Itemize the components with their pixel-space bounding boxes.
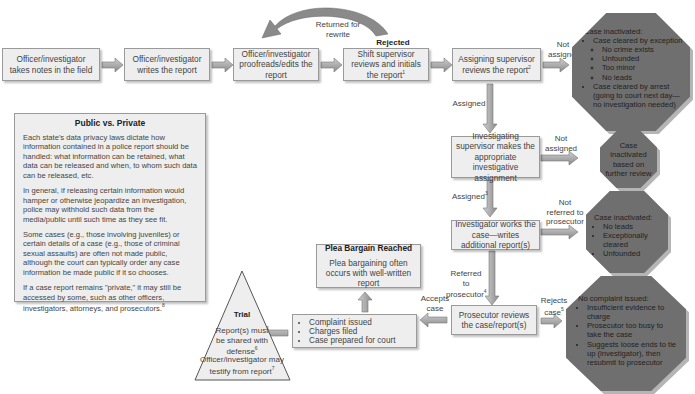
panel-paragraph: Each state's data privacy laws dictate h… xyxy=(23,133,197,180)
box-prosecutor-reviews: Prosecutor reviews the case/report(s) xyxy=(451,305,537,335)
panel-paragraph: Some cases (e.g., those involving juveni… xyxy=(23,230,197,277)
panel-paragraph: In general, if releasing certain informa… xyxy=(23,186,197,224)
octagon-item: Insufficient evidence to charge xyxy=(587,303,678,321)
box-text: Assigning supervisor reviews the report2 xyxy=(456,54,537,75)
plea-bargain-box: Plea Bargain Reached Plea bargaining oft… xyxy=(316,244,421,288)
trial-line-2: Officer/investigator may testify from re… xyxy=(200,355,284,376)
footnote: 7 xyxy=(272,365,275,371)
trial-line-1: Report(s) must be shared with defense6 xyxy=(212,326,272,356)
accepted-item: Charges filed xyxy=(309,327,410,336)
octagon-item: No leads xyxy=(603,222,664,231)
plea-title: Plea Bargain Reached xyxy=(325,243,412,253)
octagon-sublist: No crime exists Unfounded Too minor No l… xyxy=(593,45,684,81)
box-proofreads: Officer/investigator proofreads/edits th… xyxy=(233,48,319,81)
panel-paragraph: If a case report remains "private," it m… xyxy=(23,283,197,313)
label-not-referred: Not referred to prosecutor xyxy=(545,198,585,227)
box-text-main: Assigning supervisor reviews the report xyxy=(458,54,535,75)
octagon-item: Prosecutor too busy to take the case xyxy=(587,321,678,339)
octagon-item: Exceptionally cleared xyxy=(603,231,664,249)
box-text: Investigating supervisor makes the appro… xyxy=(455,131,536,183)
label-rejected: Rejected xyxy=(368,38,418,48)
label-rejects-case: Rejects case5 xyxy=(540,296,568,317)
accepted-item: Complaint issued xyxy=(309,318,410,327)
octagon-case-inactivated-3: Case inactivated: No leads Exceptionally… xyxy=(586,191,668,273)
box-text-main: Shift supervisor reviews and initials th… xyxy=(351,49,421,80)
label-returned-for-rewrite: Returned for rewrite xyxy=(308,20,368,39)
trial-title: Trial xyxy=(222,310,262,320)
case-accepted-box: Complaint issued Charges filed Case prep… xyxy=(292,314,417,348)
octagon-title: Case inactivated: xyxy=(594,213,664,222)
footnote: 8 xyxy=(162,302,165,308)
box-text: Officer/investigator proofreads/edits th… xyxy=(237,49,315,80)
octagon-subitem: Too minor xyxy=(602,63,684,72)
octagon-title: Case inactivated: xyxy=(584,27,684,36)
octagon-text: Case inactivated based on further review xyxy=(604,141,653,177)
octagon-case-inactivated-1: Case inactivated: Case cleared by except… xyxy=(572,13,690,131)
accepted-item: Case prepared for court xyxy=(309,336,410,345)
box-text: Officer/investigator takes notes in the … xyxy=(6,54,96,75)
footnote: 3 xyxy=(485,190,488,196)
box-investigating-supervisor: Investigating supervisor makes the appro… xyxy=(451,136,540,178)
footnote: 2 xyxy=(528,64,531,70)
box-text: Prosecutor reviews the case/report(s) xyxy=(455,310,533,331)
box-text: Investigator works the case—writes addit… xyxy=(455,219,536,250)
label-not-assigned-2: Not assigned xyxy=(545,134,577,153)
box-shift-supervisor: Shift supervisor reviews and initials th… xyxy=(343,48,429,81)
plea-text: Plea bargaining often occurs with well-w… xyxy=(320,258,417,289)
label-text: Assigned xyxy=(452,192,485,201)
arrow-up-icon xyxy=(358,292,372,312)
label-assigned: Assigned xyxy=(452,99,486,109)
box-writes-report: Officer/investigator writes the report xyxy=(124,48,210,81)
label-referred: Referred to prosecutor4 xyxy=(446,269,486,299)
box-investigator-works: Investigator works the case—writes addit… xyxy=(451,220,540,250)
octagon-subitem: No leads xyxy=(602,73,684,82)
octagon-list: Insufficient evidence to charge Prosecut… xyxy=(578,303,678,367)
footnote: 1 xyxy=(402,69,405,75)
public-vs-private-panel: Public vs. Private Each state's data pri… xyxy=(14,113,206,302)
panel-title: Public vs. Private xyxy=(23,118,197,129)
octagon-item: Case cleared by exception No crime exist… xyxy=(593,36,684,82)
footnote: 4 xyxy=(484,288,487,294)
accepted-list: Complaint issued Charges filed Case prep… xyxy=(299,318,410,345)
label-accepts-case: Accepts case xyxy=(420,294,450,313)
label-assigned-3: Assigned3 xyxy=(452,190,486,201)
box-take-notes: Officer/investigator takes notes in the … xyxy=(2,48,100,81)
octagon-subitem: No crime exists xyxy=(602,45,684,54)
box-text: Shift supervisor reviews and initials th… xyxy=(347,49,425,81)
octagon-case-inactivated-2: Case inactivated based on further review xyxy=(600,131,657,188)
item-text: Case cleared by exception xyxy=(593,36,683,45)
trial-text: Report(s) must be shared with defense xyxy=(216,326,269,356)
octagon-title: No complaint issued: xyxy=(578,294,678,303)
octagon-item: Case cleared by arrest (going to court n… xyxy=(593,82,684,109)
box-assigning-supervisor: Assigning supervisor reviews the report2 xyxy=(452,48,541,81)
octagon-no-complaint: No complaint issued: Insufficient eviden… xyxy=(566,276,686,391)
octagon-item: Unfounded xyxy=(603,249,664,258)
footnote: 6 xyxy=(255,345,258,351)
footnote: 5 xyxy=(561,306,564,312)
octagon-list: No leads Exceptionally cleared Unfounded xyxy=(594,222,664,258)
paragraph-text: If a case report remains "private," it m… xyxy=(23,283,181,313)
box-text: Officer/investigator writes the report xyxy=(128,54,206,75)
octagon-item: Suggests loose ends to tie up (investiga… xyxy=(587,340,678,367)
label-text: Referred to prosecutor xyxy=(446,269,484,299)
octagon-subitem: Unfounded xyxy=(602,54,684,63)
octagon-list: Case cleared by exception No crime exist… xyxy=(584,36,684,109)
